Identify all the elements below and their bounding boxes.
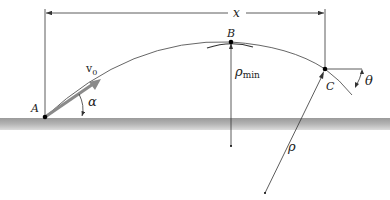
ground (0, 118, 390, 130)
label-a: A (30, 102, 39, 115)
label-rho-min: ρmin (234, 64, 260, 80)
projectile-diagram: x v0 α A B ρmin θ C ρ (0, 0, 390, 200)
point-b (229, 40, 234, 45)
label-alpha: α (88, 94, 97, 109)
point-c (323, 67, 328, 72)
theta-arrowhead-bottom (355, 82, 359, 88)
label-theta: θ (365, 73, 373, 88)
label-rho: ρ (287, 139, 296, 154)
point-a (43, 115, 48, 120)
label-v0: v0 (85, 62, 97, 77)
center-of-curvature-b (230, 145, 232, 147)
label-c: C (326, 80, 335, 93)
center-of-curvature-c (264, 192, 266, 194)
label-x: x (233, 6, 240, 20)
radius-line (265, 74, 323, 193)
alpha-arc (79, 94, 83, 116)
theta-arrowhead-top (360, 69, 364, 74)
label-b: B (226, 27, 235, 40)
radius-arrowhead (319, 71, 324, 79)
